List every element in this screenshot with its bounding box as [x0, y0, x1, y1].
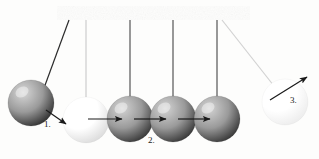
string-diagonal-right — [222, 20, 274, 86]
strings-group — [44, 20, 274, 100]
step-label-2: 2. — [148, 136, 155, 145]
string-diagonal-left — [44, 20, 69, 88]
newtons-cradle-diagram: 1.2.3. — [0, 0, 319, 159]
support-bar — [57, 6, 250, 20]
support-bar-group — [57, 6, 250, 20]
step-label-1: 1. — [44, 120, 51, 129]
step-label-3: 3. — [290, 96, 297, 105]
balls-group — [8, 79, 308, 143]
light-ball — [63, 97, 109, 143]
swung-right-pale-ball — [262, 79, 308, 125]
diagram-canvas — [0, 0, 319, 159]
